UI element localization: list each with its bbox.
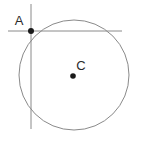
point-c-label: C [76,58,85,73]
point-a-label: A [15,13,24,28]
point-a-dot [28,28,34,34]
geometry-figure: A C [0,0,141,143]
geometry-canvas: A C [0,0,141,143]
point-c-dot [70,73,76,79]
